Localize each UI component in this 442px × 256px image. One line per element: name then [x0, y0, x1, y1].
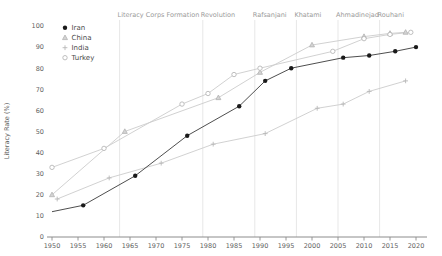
marker-filled-circle [263, 79, 267, 83]
x-tick-label: 1990 [252, 242, 269, 250]
marker-open-circle [63, 56, 67, 60]
literacy-rate-chart: Literacy Corps FormationRevolutionRafsan… [0, 0, 442, 256]
event-label-khatami: Khatami [294, 11, 321, 19]
marker-filled-circle [237, 104, 241, 108]
marker-open-circle [50, 165, 54, 169]
marker-triangle [403, 30, 408, 35]
y-tick-label: 0 [40, 233, 44, 241]
y-tick-label: 80 [36, 65, 44, 73]
y-tick-label: 30 [36, 170, 44, 178]
event-label-rafsanjani: Rafsanjani [253, 11, 287, 19]
event-label-literacy-corps-formation: Literacy Corps Formation [118, 11, 200, 19]
x-tick-label: 1970 [148, 242, 165, 250]
x-tick-label: 2005 [330, 242, 347, 250]
legend-label-china: China [72, 34, 92, 42]
event-label-revolution: Revolution [201, 11, 235, 19]
marker-filled-circle [414, 45, 418, 49]
x-tick-label: 1965 [122, 242, 139, 250]
marker-open-circle [362, 36, 366, 40]
x-tick-label: 1955 [70, 242, 87, 250]
marker-open-circle [409, 30, 413, 34]
series-line-iran [52, 47, 416, 212]
x-tick-label: 2020 [408, 242, 425, 250]
legend-label-india: India [72, 44, 89, 52]
marker-filled-circle [289, 66, 293, 70]
marker-filled-circle [133, 174, 137, 178]
event-label-ahmadinejad: Ahmadinejad [336, 11, 379, 19]
y-tick-label: 10 [36, 212, 44, 220]
event-label-rouhani: Rouhani [378, 11, 405, 19]
x-tick-label: 1975 [174, 242, 191, 250]
x-tick-label: 2015 [382, 242, 399, 250]
marker-open-circle [232, 72, 236, 76]
marker-open-circle [258, 66, 262, 70]
marker-filled-circle [367, 53, 371, 57]
x-tick-label: 1985 [226, 242, 243, 250]
x-tick-label: 2010 [356, 242, 373, 250]
marker-filled-circle [185, 134, 189, 138]
x-tick-label: 1950 [44, 242, 61, 250]
marker-triangle [216, 95, 221, 100]
x-tick-label: 1980 [200, 242, 217, 250]
marker-filled-circle [63, 26, 67, 30]
y-axis-title: Literacy Rate (%) [3, 103, 11, 159]
marker-filled-circle [81, 203, 85, 207]
marker-open-circle [388, 32, 392, 36]
x-tick-label: 2000 [304, 242, 321, 250]
y-tick-label: 90 [36, 43, 44, 51]
marker-open-circle [331, 49, 335, 53]
marker-triangle [63, 35, 68, 40]
marker-open-circle [206, 91, 210, 95]
marker-filled-circle [341, 55, 345, 59]
legend-label-iran: Iran [72, 24, 86, 32]
legend-label-turkey: Turkey [71, 54, 95, 62]
marker-open-circle [180, 102, 184, 106]
y-tick-label: 20 [36, 191, 44, 199]
y-tick-label: 100 [32, 22, 44, 30]
y-tick-label: 60 [36, 107, 44, 115]
y-tick-label: 70 [36, 86, 44, 94]
x-tick-label: 1995 [278, 242, 295, 250]
series-line-india [57, 81, 405, 199]
marker-open-circle [102, 146, 106, 150]
y-tick-label: 40 [36, 149, 44, 157]
marker-filled-circle [393, 49, 397, 53]
x-tick-label: 1960 [96, 242, 113, 250]
y-tick-label: 50 [36, 128, 44, 136]
chart-canvas: Literacy Corps FormationRevolutionRafsan… [0, 0, 442, 256]
